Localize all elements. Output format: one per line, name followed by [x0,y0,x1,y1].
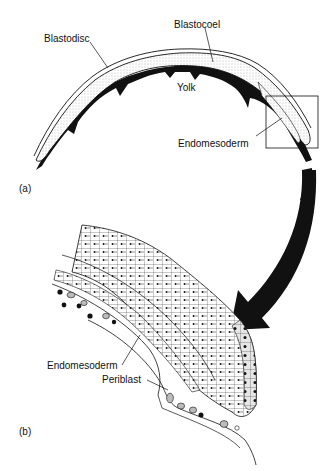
label-blastodisc: Blastodisc [44,33,90,44]
blastoderm-cells [72,225,256,416]
label-periblast: Periblast [102,374,141,385]
panel-label-a: (a) [19,183,31,194]
label-yolk: Yolk [177,82,197,93]
panel-b: Endomesoderm Periblast (b) [19,225,256,465]
label-endomesoderm-b: Endomesoderm [47,360,118,371]
label-blastocoel: Blastocoel [174,19,220,30]
endomesoderm-leader-a [256,118,282,136]
panel-a: Blastodisc Blastocoel Yolk Endomesoderm … [19,19,318,200]
periblast-leader [147,380,168,390]
zoom-arrow [230,170,316,330]
endomesoderm-leader-b [122,335,140,365]
label-endomesoderm-a: Endomesoderm [178,138,249,149]
blastodisc-leader [90,42,108,68]
panel-label-b: (b) [19,426,31,437]
embryo-diagram: Blastodisc Blastocoel Yolk Endomesoderm … [0,0,330,471]
